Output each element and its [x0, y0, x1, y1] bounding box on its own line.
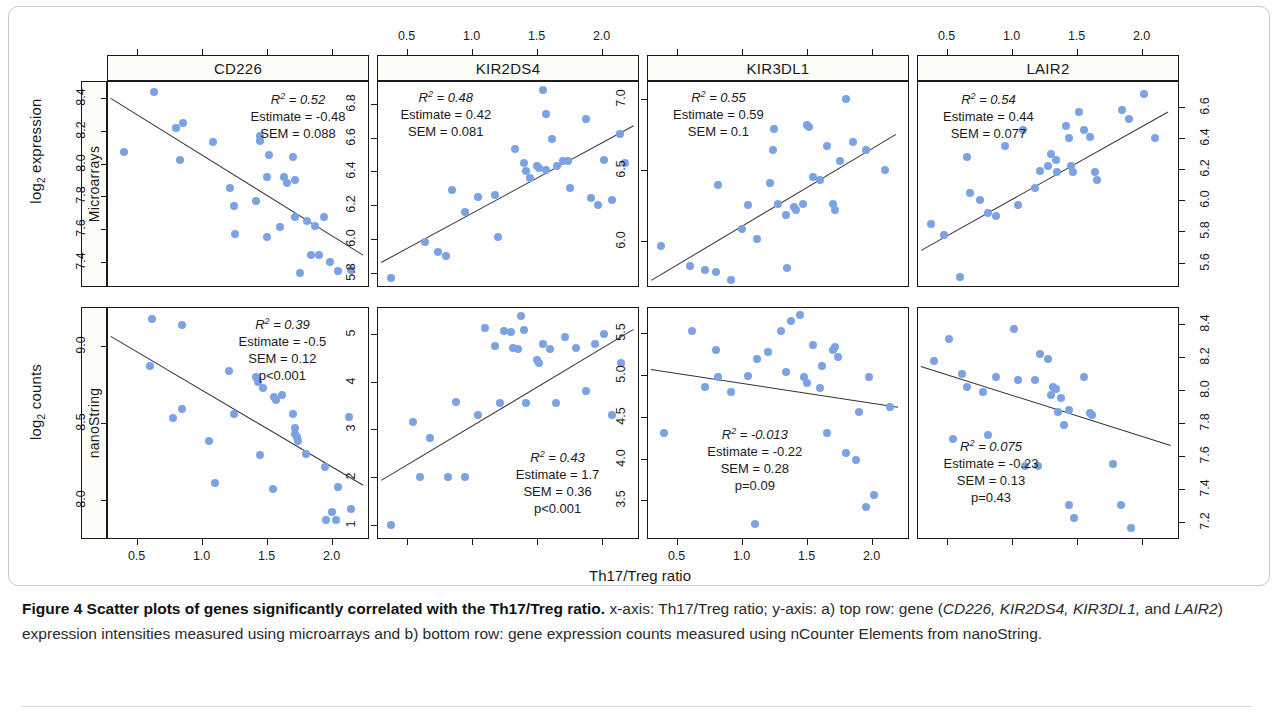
y-tick-label: 5.6 — [1198, 244, 1212, 280]
data-point — [984, 209, 992, 217]
data-point — [491, 342, 499, 350]
panel-strip-cd226: CD226 — [107, 55, 369, 81]
y-tick — [641, 99, 647, 100]
data-point — [852, 456, 860, 464]
data-point — [332, 516, 340, 524]
y-tick — [1179, 200, 1185, 201]
data-point — [865, 373, 873, 381]
data-point — [409, 418, 417, 426]
data-point — [992, 212, 1000, 220]
data-point — [1070, 514, 1078, 522]
y-tick-label: 6.8 — [344, 85, 358, 121]
x-tick — [602, 539, 603, 545]
y-tick — [371, 171, 377, 172]
data-point — [686, 262, 694, 270]
caption-bold-title: Figure 4 Scatter plots of genes signific… — [22, 600, 605, 617]
data-point — [334, 267, 342, 275]
x-tick — [267, 539, 268, 545]
data-point — [1086, 133, 1094, 141]
y-tick-label: 7.8 — [1198, 404, 1212, 440]
y-tick — [371, 477, 377, 478]
x-tick-label: 1.0 — [724, 549, 760, 563]
x-tick — [1142, 539, 1143, 545]
regression-line — [920, 366, 1170, 446]
data-point — [514, 345, 522, 353]
y-tick-label: 6.2 — [344, 186, 358, 222]
data-point — [862, 146, 870, 154]
data-point — [782, 211, 790, 219]
data-point — [1001, 142, 1009, 150]
plot-frame-kir2ds4-microarrays: R2 = 0.48Estimate = 0.42SEM = 0.081 — [377, 81, 639, 287]
data-point — [296, 269, 304, 277]
data-point — [522, 399, 530, 407]
data-point — [940, 231, 948, 239]
plot-frame-kir3dl1-microarrays: R2 = 0.55Estimate = 0.59SEM = 0.1 — [647, 81, 909, 287]
y-tick — [641, 417, 647, 418]
y-tick-label: 6.2 — [1198, 150, 1212, 186]
data-point — [178, 321, 186, 329]
panel-kir2ds4-microarrays: KIR2DS4R2 = 0.48Estimate = 0.42SEM = 0.0… — [377, 55, 639, 287]
data-point — [461, 473, 469, 481]
data-point — [542, 110, 550, 118]
data-point — [334, 483, 342, 491]
data-point — [252, 197, 260, 205]
data-point — [1065, 134, 1073, 142]
y-tick — [1179, 324, 1185, 325]
x-tick — [537, 539, 538, 545]
data-point — [1117, 501, 1125, 509]
x-tick — [1012, 49, 1013, 55]
data-point — [289, 410, 297, 418]
data-point — [594, 201, 602, 209]
panel-kir3dl1-nanostring: R2 = -0.013Estimate = -0.22SEM = 0.28p=0… — [647, 307, 909, 539]
y-tick-label: 6.0 — [614, 222, 628, 258]
data-point — [783, 264, 791, 272]
x-tick — [872, 539, 873, 545]
data-point — [714, 181, 722, 189]
data-point — [712, 268, 720, 276]
data-point — [434, 248, 442, 256]
data-point — [291, 213, 299, 221]
data-point — [179, 119, 187, 127]
data-point — [849, 138, 857, 146]
data-point — [416, 473, 424, 481]
outer-ylabel-bottom: log2 counts — [27, 322, 47, 482]
data-point — [1088, 411, 1096, 419]
y-tick — [371, 239, 377, 240]
data-point — [1031, 376, 1039, 384]
y-tick — [1179, 107, 1185, 108]
data-point — [777, 327, 785, 335]
x-tick-label: 0.5 — [119, 549, 155, 563]
data-point — [307, 251, 315, 259]
data-point — [1125, 115, 1133, 123]
data-point — [751, 520, 759, 528]
x-tick-label: 2.0 — [854, 549, 890, 563]
y-tick-label: 7.8 — [74, 177, 88, 213]
y-tick — [101, 229, 107, 230]
x-tick — [1077, 539, 1078, 545]
data-point — [230, 410, 238, 418]
y-tick — [641, 459, 647, 460]
x-tick — [742, 539, 743, 545]
data-point — [744, 372, 752, 380]
x-tick — [202, 539, 203, 545]
data-point — [231, 230, 239, 238]
data-point — [591, 340, 599, 348]
data-point — [291, 424, 299, 432]
x-tick-label: 1.5 — [519, 29, 555, 43]
row-strip-nanostring-label: nanoString — [86, 388, 102, 459]
data-point — [328, 508, 336, 516]
data-point — [178, 405, 186, 413]
data-point — [511, 145, 519, 153]
data-point — [474, 193, 482, 201]
data-point — [831, 343, 839, 351]
data-point — [507, 328, 515, 336]
data-point — [744, 201, 752, 209]
stats-annotation-lair2-nanostring: R2 = 0.075Estimate = -0.23SEM = 0.13p=0.… — [931, 435, 1051, 506]
data-point — [226, 184, 234, 192]
data-point — [976, 196, 984, 204]
y-tick — [371, 273, 377, 274]
y-tick-label: 4 — [344, 363, 358, 399]
data-point — [1010, 325, 1018, 333]
x-tick-label: 1.0 — [184, 549, 220, 563]
data-point — [1062, 122, 1070, 130]
